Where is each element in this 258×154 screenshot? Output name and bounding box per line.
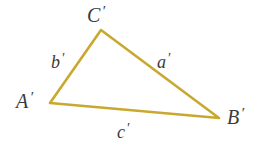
side-label-a-text: a: [157, 52, 167, 72]
prime-mark-b: ′: [241, 104, 245, 121]
triangle-diagram: A′ B′ C′ a′ b′ c′: [0, 0, 258, 154]
prime-mark-side-b: ′: [61, 50, 65, 66]
prime-mark-c: ′: [102, 2, 106, 19]
vertex-label-b-text: B: [227, 106, 240, 128]
vertex-label-c: C′: [87, 5, 105, 25]
prime-mark-a: ′: [30, 88, 34, 105]
vertex-label-b: B′: [227, 107, 244, 127]
side-label-c: c′: [117, 123, 129, 141]
vertex-label-a-text: A: [16, 90, 29, 112]
side-label-a: a′: [157, 53, 170, 71]
side-label-b-text: b: [51, 52, 61, 72]
vertex-label-a: A′: [16, 91, 33, 111]
prime-mark-side-a: ′: [167, 50, 171, 66]
side-label-b: b′: [51, 53, 64, 71]
vertex-label-c-text: C: [87, 4, 101, 26]
side-label-c-text: c: [117, 122, 126, 142]
triangle-outline: [50, 30, 219, 118]
prime-mark-side-c: ′: [126, 120, 130, 136]
